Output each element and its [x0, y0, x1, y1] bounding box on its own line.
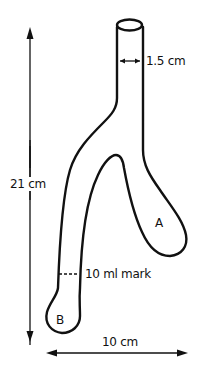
diameter-label: 1.5 cm [146, 55, 185, 67]
diameter-arrow [120, 59, 140, 64]
arm-a-label: A [155, 217, 163, 229]
ten-ml-mark-label: 10 ml mark [85, 268, 151, 280]
width-arrow [46, 350, 188, 357]
tube-opening [117, 20, 142, 31]
height-label: 21 cm [10, 177, 46, 191]
width-label: 10 cm [102, 336, 138, 348]
arm-b-label: B [56, 314, 64, 326]
left-outer-wall [46, 27, 186, 333]
